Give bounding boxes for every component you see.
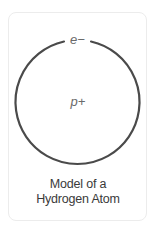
nucleus-label: p+ bbox=[70, 94, 86, 109]
caption-line-1: Model of a bbox=[8, 177, 148, 192]
diagram-caption: Model of a Hydrogen Atom bbox=[8, 177, 148, 207]
caption-line-2: Hydrogen Atom bbox=[8, 192, 148, 207]
electron-label: e− bbox=[70, 32, 85, 47]
